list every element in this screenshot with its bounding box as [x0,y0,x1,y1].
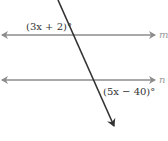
angle-label-lower: (5x − 40)° [103,86,155,97]
diagram-canvas: m n (3x + 2)° (5x − 40)° [0,0,168,141]
angle-label-upper: (3x + 2)° [26,21,72,32]
line-m-label: m [159,29,168,40]
transversal [58,0,114,126]
line-n-label: n [159,74,165,85]
